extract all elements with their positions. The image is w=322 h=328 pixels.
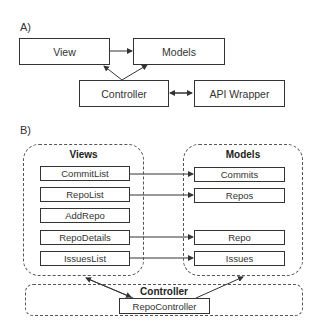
controller-group-title: Controller [25, 286, 303, 297]
controller-box: Controller [79, 80, 169, 107]
view-addrepo: AddRepo [40, 208, 130, 223]
view-issueslist: IssuesList [40, 251, 130, 266]
section-a-label: A) [20, 21, 31, 33]
models-group-title: Models [183, 149, 303, 160]
model-issues: Issues [194, 251, 285, 266]
section-b-label: B) [20, 124, 31, 136]
view-repolist: RepoList [40, 187, 130, 202]
model-repo: Repo [194, 230, 285, 245]
model-repos: Repos [194, 188, 285, 203]
view-box: View [19, 38, 110, 65]
controller-repocontroller: RepoController [119, 298, 210, 314]
models-box: Models [133, 38, 225, 65]
views-group-title: Views [23, 149, 144, 160]
view-repodetails: RepoDetails [40, 230, 130, 245]
api-wrapper-box: API Wrapper [194, 80, 285, 107]
view-commitlist: CommitList [40, 166, 130, 181]
model-commits: Commits [194, 167, 285, 182]
